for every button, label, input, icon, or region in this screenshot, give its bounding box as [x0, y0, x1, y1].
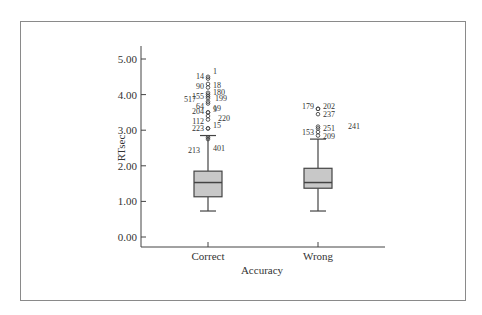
y-tick-label: 1.00	[118, 195, 138, 207]
outlier-label: 241	[348, 122, 360, 131]
iqr-box	[304, 168, 332, 188]
outlier-label: 1	[213, 67, 217, 76]
outlier-label: 153	[302, 128, 314, 137]
y-tick-label: 4.00	[118, 89, 138, 101]
outlier-marker	[206, 82, 210, 86]
outlier-label: 213	[188, 146, 200, 155]
outlier-marker	[206, 111, 210, 115]
outlier-marker	[206, 86, 210, 90]
outlier-label: 14	[196, 72, 204, 81]
x-category-label: Correct	[192, 250, 225, 262]
axes: 0.001.002.003.004.005.00CorrectWrong	[118, 46, 385, 262]
y-tick-label: 3.00	[118, 124, 138, 136]
outlier-marker	[206, 114, 210, 118]
outlier-label: 401	[213, 144, 225, 153]
outlier-label: 15	[213, 121, 221, 130]
outlier-label: 204	[192, 107, 204, 116]
box-wrong: 179202237241251153209	[302, 102, 360, 211]
box-correct: 1141890180155199517641920492201122231521…	[184, 67, 230, 211]
x-category-label: Wrong	[303, 250, 334, 262]
boxes: 1141890180155199517641920492201122231521…	[184, 67, 360, 211]
y-axis-title: RTsec	[115, 135, 127, 162]
iqr-box	[194, 171, 222, 197]
outlier-label: 209	[323, 132, 335, 141]
y-tick-label: 0.00	[118, 231, 138, 243]
outlier-marker	[316, 134, 320, 138]
outlier-label: 199	[215, 94, 227, 103]
outlier-label: 9	[213, 105, 217, 114]
outlier-marker	[316, 112, 320, 116]
outlier-marker	[206, 118, 210, 122]
outlier-label: 223	[192, 124, 204, 133]
outlier-marker	[316, 107, 320, 111]
outlier-label: 90	[196, 82, 204, 91]
outlier-marker	[206, 127, 210, 131]
outlier-label: 179	[302, 102, 314, 111]
x-axis-title: Accuracy	[241, 264, 284, 276]
boxplot-chart: 0.001.002.003.004.005.00CorrectWrong 114…	[0, 0, 482, 315]
outlier-label: 517	[184, 95, 196, 104]
outlier-label: 237	[323, 110, 335, 119]
outlier-marker	[316, 130, 320, 134]
y-tick-label: 5.00	[118, 53, 138, 65]
